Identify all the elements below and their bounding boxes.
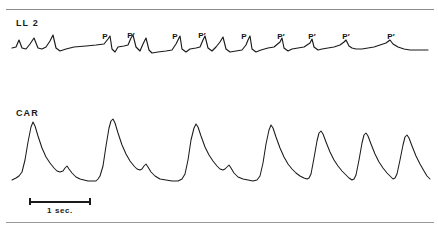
p-wave-marker: P′ <box>387 32 394 41</box>
ecg-trace-line <box>12 35 428 53</box>
scalebar-tick-right <box>89 198 91 205</box>
p-wave-marker: P <box>241 32 246 41</box>
figure-bottom-rule <box>6 222 434 223</box>
carotid-trace-line <box>12 119 430 181</box>
p-wave-marker: P <box>102 32 107 41</box>
time-calibration-bar: 1 sec. <box>29 198 91 215</box>
p-wave-marker: P <box>172 32 177 41</box>
p-wave-marker: P′ <box>277 32 284 41</box>
scalebar-line <box>29 198 91 205</box>
p-wave-marker: P′ <box>127 31 134 40</box>
scalebar-label: 1 sec. <box>29 206 91 215</box>
p-wave-marker: P′ <box>308 32 315 41</box>
channel-label-ecg: LL 2 <box>16 18 39 28</box>
physiological-recording-figure: LL 2 CAR PP′PP′PP′P′P′P′ 1 sec. <box>0 0 438 236</box>
p-wave-marker: P′ <box>198 31 205 40</box>
channel-label-carotid: CAR <box>16 108 39 118</box>
figure-top-rule <box>6 9 434 10</box>
p-wave-marker: P′ <box>342 32 349 41</box>
scalebar-tick-left <box>29 198 31 205</box>
